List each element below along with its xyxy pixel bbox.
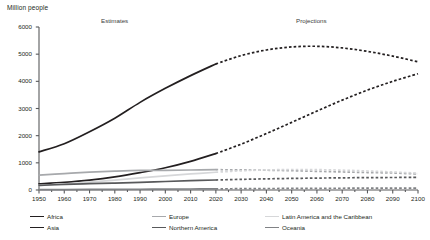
x-tick-label: 2050	[279, 195, 305, 202]
x-tick-label: 1970	[77, 195, 103, 202]
x-tick-label: 2020	[203, 195, 229, 202]
plot-area: 0100020003000400050006000 19501960197019…	[0, 0, 425, 212]
series-line-projections-africa	[216, 74, 418, 154]
legend-item-northern-america[interactable]: Northern America	[152, 224, 217, 231]
legend-item-oceania[interactable]: Oceania	[265, 224, 305, 231]
legend-item-latin-america-and-the-caribbean[interactable]: Latin America and the Caribbean	[265, 213, 372, 220]
series-line-estimates-oceania	[39, 189, 216, 190]
chart-legend: AfricaEuropeLatin America and the Caribb…	[0, 210, 425, 240]
legend-swatch-icon	[265, 216, 279, 217]
x-tick-label: 1980	[102, 195, 128, 202]
x-tick-label: 2090	[380, 195, 406, 202]
y-tick-label: 1000	[6, 159, 32, 166]
legend-swatch-icon	[30, 216, 44, 217]
x-tick-label: 2030	[228, 195, 254, 202]
series-line-estimates-asia	[39, 64, 216, 152]
x-tick-label: 1950	[26, 195, 52, 202]
legend-swatch-icon	[152, 216, 166, 217]
y-tick-label: 0	[6, 186, 32, 193]
line-chart-svg	[0, 0, 425, 212]
x-tick-label: 2010	[178, 195, 204, 202]
legend-label: Northern America	[169, 224, 217, 231]
x-tick-label: 2040	[253, 195, 279, 202]
series-line-projections-northern-america	[216, 177, 418, 180]
x-tick-label: 2100	[405, 195, 430, 202]
x-tick-label: 2070	[329, 195, 355, 202]
series-line-projections-asia	[216, 46, 418, 64]
x-tick-label: 2060	[304, 195, 330, 202]
y-tick-label: 5000	[6, 50, 32, 57]
legend-label: Europe	[169, 213, 189, 220]
x-tick-label: 2080	[354, 195, 380, 202]
x-tick-label: 1960	[51, 195, 77, 202]
legend-swatch-icon	[265, 227, 279, 228]
axes-group	[36, 27, 418, 193]
legend-label: Oceania	[282, 224, 305, 231]
series-group	[39, 46, 418, 189]
x-tick-label: 1990	[127, 195, 153, 202]
legend-swatch-icon	[30, 227, 44, 228]
y-tick-label: 3000	[6, 105, 32, 112]
series-line-projections-oceania	[216, 188, 418, 189]
legend-item-asia[interactable]: Asia	[30, 224, 59, 231]
legend-label: Asia	[47, 224, 59, 231]
y-tick-label: 6000	[6, 23, 32, 30]
y-tick-label: 4000	[6, 77, 32, 84]
y-tick-label: 2000	[6, 132, 32, 139]
legend-item-europe[interactable]: Europe	[152, 213, 189, 220]
legend-label: Latin America and the Caribbean	[282, 213, 372, 220]
legend-label: Africa	[47, 213, 63, 220]
x-tick-label: 2000	[152, 195, 178, 202]
legend-item-africa[interactable]: Africa	[30, 213, 63, 220]
legend-swatch-icon	[152, 227, 166, 228]
